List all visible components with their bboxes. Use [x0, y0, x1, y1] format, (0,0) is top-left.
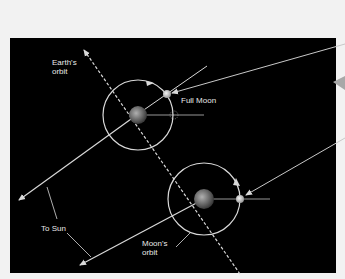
earth-2-icon — [194, 189, 214, 209]
callout-pointer-full-moon — [172, 44, 345, 93]
callout-pointer-moon-2 — [246, 138, 345, 195]
diagram-stage: Earth's orbit Full Moon To Sun Moon's or… — [0, 0, 345, 279]
moons-orbit-label: Moon's orbit — [142, 239, 168, 257]
moons-orbit-leader — [176, 233, 190, 247]
full-moon-label: Full Moon — [181, 96, 216, 105]
sun-direction-arrows — [19, 114, 204, 265]
to-sun-leader-1 — [47, 187, 57, 219]
to-sun-label: To Sun — [41, 224, 66, 233]
callout-arrow-icon — [333, 76, 345, 90]
diagram-graphics — [0, 0, 345, 279]
moon-2-icon — [236, 195, 244, 203]
earth-1-icon — [129, 106, 147, 124]
full-moon-icon — [163, 90, 171, 98]
earths-orbit-label: Earth's orbit — [52, 58, 77, 76]
to-sun-leader-2 — [67, 233, 91, 257]
